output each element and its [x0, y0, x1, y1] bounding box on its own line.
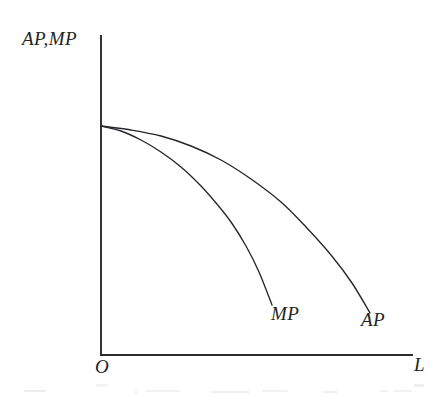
plot-svg	[0, 0, 444, 397]
origin-label: O	[95, 357, 109, 376]
y-axis-label: AP,MP	[22, 29, 77, 48]
figure-canvas: AP,MP O L MP AP	[0, 0, 444, 397]
curve-mp	[101, 126, 272, 305]
x-axis-label: L	[414, 355, 425, 374]
curve-label-ap: AP	[361, 310, 385, 329]
curve-label-mp: MP	[271, 304, 299, 323]
curve-ap	[101, 126, 370, 313]
